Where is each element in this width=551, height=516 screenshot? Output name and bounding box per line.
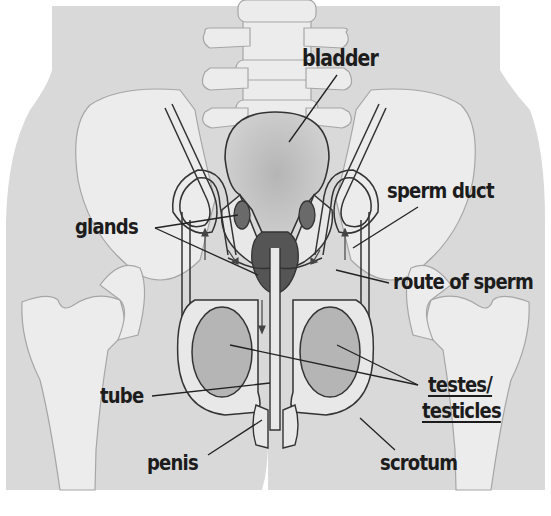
label-penis: penis [147, 452, 198, 474]
label-tube: tube [100, 385, 143, 407]
label-testicles: testicles [422, 400, 501, 422]
label-scrotum: scrotum [380, 452, 457, 474]
gland-right [299, 201, 315, 229]
reproductive-system-diagram [0, 0, 551, 516]
label-glands: glands [75, 216, 138, 238]
label-route-of-sperm: route of sperm [393, 271, 533, 293]
label-sperm-duct: sperm duct [387, 180, 494, 202]
label-testes: testes/ [428, 374, 492, 396]
testis-left [192, 307, 252, 397]
label-bladder: bladder [302, 47, 378, 70]
